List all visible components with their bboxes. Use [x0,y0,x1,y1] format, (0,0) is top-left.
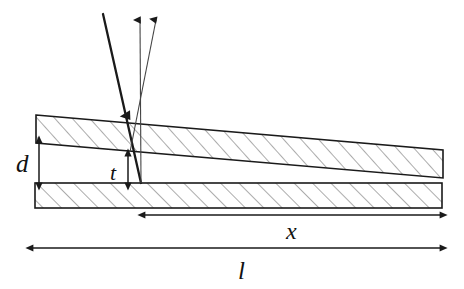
lower-flat-plate-hatch [35,183,442,208]
plates-group [35,115,443,208]
rays-group [103,14,156,183]
upper-wedge-plate [36,115,443,178]
label-t: t [110,160,117,185]
upper-wedge-plate-hatch [36,115,443,178]
label-l: l [238,257,245,284]
figure-canvas: d t x l [0,0,464,289]
label-d: d [16,150,29,177]
labels-group: d t x l [16,150,297,284]
incident-ray [103,14,141,183]
lower-flat-plate [35,183,442,208]
wedge-interference-figure: d t x l [0,0,464,289]
label-x: x [285,218,297,244]
